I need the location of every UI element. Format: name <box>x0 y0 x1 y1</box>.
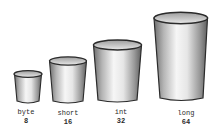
int-label: int 32 <box>115 108 128 126</box>
int-cup-icon <box>94 40 142 102</box>
long-label: long 64 <box>178 109 195 127</box>
short-cup-icon <box>50 57 87 103</box>
byte-label: byte 8 <box>18 108 35 126</box>
long-cup-icon <box>154 12 208 100</box>
bit-width: 16 <box>57 118 78 127</box>
primitive-size-cups-illustration: byte 8 short 16 int 32 long 64 <box>0 0 216 136</box>
type-name: long <box>178 109 195 118</box>
type-name: int <box>115 108 128 117</box>
bit-width: 8 <box>18 117 35 126</box>
bit-width: 32 <box>115 117 128 126</box>
type-name: byte <box>18 108 35 117</box>
type-name: short <box>57 109 78 118</box>
short-label: short 16 <box>57 109 78 127</box>
bit-width: 64 <box>178 118 195 127</box>
byte-cup-icon <box>14 71 42 103</box>
